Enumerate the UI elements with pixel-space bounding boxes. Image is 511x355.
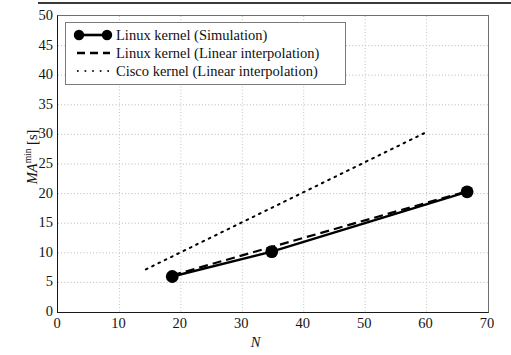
chart-page: 05101520253035404550 010203040506070 N M… xyxy=(0,0,511,355)
x-tick-label: 40 xyxy=(283,316,323,331)
y-tick-label: 50 xyxy=(23,8,53,23)
legend-label: Cisco kernel (Linear interpolation) xyxy=(116,64,318,79)
legend-swatch-dotted-icon xyxy=(70,62,116,80)
y-axis-title-unit: [s] xyxy=(24,130,40,149)
y-tick-label: 45 xyxy=(23,38,53,53)
x-tick-label: 0 xyxy=(37,316,77,331)
legend-item-simulation: Linux kernel (Simulation) xyxy=(70,26,341,44)
legend-swatch-dashed-icon xyxy=(70,44,116,62)
x-axis-title-text: N xyxy=(251,334,261,350)
series-line xyxy=(172,191,467,275)
y-axis-title-superscript: min xyxy=(23,149,33,164)
legend-item-cisco-interpolation: Cisco kernel (Linear interpolation) xyxy=(70,62,341,80)
x-tick-label: 20 xyxy=(160,316,200,331)
page-rule-artifact xyxy=(38,2,511,4)
y-tick-label: 5 xyxy=(23,274,53,289)
y-tick-label: 40 xyxy=(23,67,53,82)
x-tick-label: 50 xyxy=(344,316,384,331)
x-tick-label: 30 xyxy=(221,316,261,331)
x-tick-label: 60 xyxy=(406,316,446,331)
y-tick-label: 15 xyxy=(23,215,53,230)
y-axis-title: MAmin [s] xyxy=(23,102,41,212)
legend: Linux kernel (Simulation) Linux kernel (… xyxy=(65,22,346,85)
legend-item-linux-interpolation: Linux kernel (Linear interpolation) xyxy=(70,44,341,62)
x-axis-title: N xyxy=(0,334,511,351)
y-axis-title-base: MA xyxy=(24,163,40,184)
legend-label: Linux kernel (Simulation) xyxy=(116,28,267,43)
y-tick-label: 10 xyxy=(23,245,53,260)
x-tick-label: 10 xyxy=(98,316,138,331)
series-line xyxy=(146,132,427,269)
legend-swatch-solid-marker-icon xyxy=(70,26,116,44)
legend-label: Linux kernel (Linear interpolation) xyxy=(116,46,319,61)
data-point-marker xyxy=(166,270,179,283)
x-tick-label: 70 xyxy=(467,316,507,331)
